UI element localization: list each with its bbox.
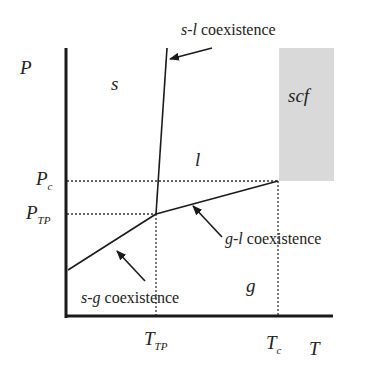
x-axis-label: T [309,339,320,358]
sl-arrow-icon [170,48,212,59]
region-gas-label: g [246,276,256,295]
y-tick-pc: Pc [36,169,53,188]
region-scf-label: scf [288,86,309,105]
sg-coexistence-label: s-g coexistence [81,290,179,306]
gl-arrow-icon [193,206,222,237]
gl-coexistence-line [156,181,278,214]
x-tick-tc: Tc [266,333,281,352]
sl-coexistence-label: s-l coexistence [181,22,276,38]
phase-diagram [0,0,376,377]
sg-arrow-icon [117,251,145,281]
region-solid-label: s [111,74,118,93]
sg-coexistence-line [68,214,156,270]
y-tick-ptp: PTP [26,203,50,222]
y-axis-label: P [20,58,32,77]
region-liquid-label: l [195,150,200,169]
gl-coexistence-label: g-l coexistence [225,231,321,247]
sl-coexistence-line [156,48,167,214]
scf-region [279,48,334,181]
x-tick-ttp: TTP [144,329,167,348]
